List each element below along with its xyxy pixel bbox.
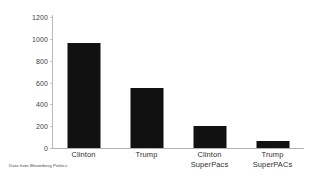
bar[interactable] [130, 88, 163, 148]
y-axis-tick-mark [50, 126, 52, 127]
y-axis-tick-label: 600 [4, 79, 48, 86]
x-axis-category-label: Trump [115, 150, 178, 160]
x-axis-category-labels: ClintonTrumpClintonSuperPacsTrump SuperP… [52, 150, 304, 178]
y-axis-tick-mark [50, 17, 52, 18]
source-caption: Data from Bloomberg Politics [9, 163, 67, 168]
bar-slot [52, 17, 115, 148]
y-axis-tick-mark [50, 61, 52, 62]
x-axis-category-label-line: SuperPacs [178, 160, 241, 170]
y-axis-tick-label: 800 [4, 57, 48, 64]
bar[interactable] [256, 141, 289, 148]
x-axis-category-label: Clinton [52, 150, 115, 160]
bar-slot [178, 17, 241, 148]
y-axis-tick-label: 1200 [4, 14, 48, 21]
bar-slot [241, 17, 304, 148]
y-axis-tick-mark [50, 39, 52, 40]
x-axis-category-label-line: Clinton [52, 150, 115, 160]
x-axis-category-label-line: Trump [115, 150, 178, 160]
bar-series [52, 17, 304, 148]
x-axis-category-label: Trump SuperPACs [241, 150, 304, 169]
bar-slot [115, 17, 178, 148]
x-axis-category-label-line: Clinton [178, 150, 241, 160]
y-axis-tick-label: 0 [4, 145, 48, 152]
x-axis-line [52, 148, 304, 149]
y-axis-tick-mark [50, 83, 52, 84]
y-axis-tick-mark [50, 104, 52, 105]
x-axis-category-label: ClintonSuperPacs [178, 150, 241, 169]
bar[interactable] [193, 126, 226, 148]
bar-chart: 120010008006004002000 Millions ClintonTr… [0, 0, 315, 179]
y-axis-tick-mark [50, 148, 52, 149]
y-axis-tick-label: 200 [4, 123, 48, 130]
bar[interactable] [67, 43, 100, 148]
x-axis-category-label-line: Trump SuperPACs [241, 150, 304, 169]
y-axis-tick-label: 1000 [4, 35, 48, 42]
y-axis-tick-label: 400 [4, 101, 48, 108]
y-axis-tick-labels: 120010008006004002000 [0, 0, 48, 179]
